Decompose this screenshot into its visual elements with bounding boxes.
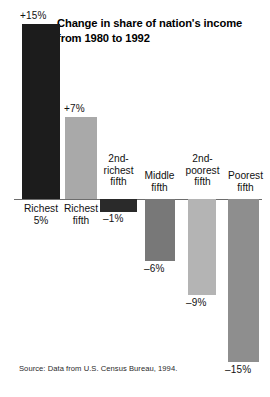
plot-area: +15%Richest 5%+7%Richest fifth–1%2nd- ri… [0,0,270,397]
value-label-richest-5: +15% [20,10,47,21]
source-note: Source: Data from U.S. Census Bureau, 19… [19,364,177,373]
value-label-richest-fifth: +7% [64,103,85,114]
value-label-poorest-fifth: –15% [225,364,251,375]
bar-second-poorest-fifth [188,199,216,295]
zero-baseline [14,199,262,200]
value-label-middle-fifth: –6% [144,263,165,274]
value-label-second-poorest-fifth: –9% [186,297,207,308]
value-label-second-richest-fifth: –1% [103,213,124,224]
income-share-change-chart: Change in share of nation's income from … [0,0,270,397]
category-label-poorest-fifth: Poorest fifth [221,170,270,193]
bar-richest-5 [22,24,60,199]
bar-poorest-fifth [228,199,259,362]
bar-middle-fifth [145,199,175,261]
bar-second-richest-fifth [100,199,137,212]
